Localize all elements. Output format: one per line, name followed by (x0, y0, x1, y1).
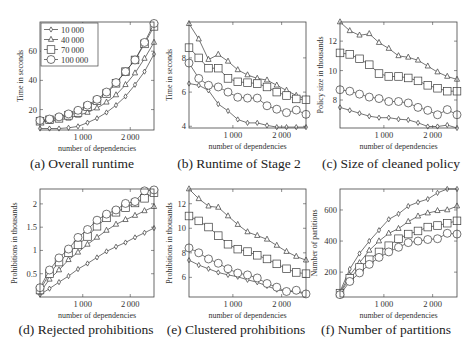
diamond-marker-icon (236, 117, 239, 122)
square-marker-icon (395, 73, 403, 81)
diamond-marker-icon (105, 110, 108, 115)
square-marker-icon (434, 84, 442, 92)
circle-marker-icon (283, 287, 291, 295)
circle-marker-icon (404, 239, 412, 247)
circle-marker-icon (55, 254, 63, 262)
triangle-marker-icon (376, 238, 381, 243)
circle-marker-icon (112, 206, 120, 214)
diamond-marker-icon (407, 117, 410, 122)
circle-marker-icon (93, 216, 101, 224)
square-marker-icon (263, 83, 271, 91)
circle-marker-icon (46, 115, 54, 123)
x-axis-label: number of dependencies (208, 311, 286, 320)
circle-marker-icon (263, 280, 271, 288)
circle-marker-icon (356, 90, 364, 98)
circle-marker-icon (365, 93, 373, 101)
circle-marker-icon (84, 101, 92, 109)
diamond-marker-icon (348, 108, 351, 113)
diamond-marker-icon (295, 125, 298, 130)
diamond-marker-icon (407, 203, 410, 208)
diamond-marker-icon (105, 249, 108, 254)
triangle-marker-icon (85, 241, 90, 246)
square-marker-icon (47, 46, 55, 54)
square-marker-icon (283, 265, 291, 273)
triangle-marker-icon (386, 45, 391, 50)
circle-marker-icon (434, 235, 442, 243)
triangle-marker-icon (216, 204, 221, 209)
x-tick-label: 1 000 (224, 299, 243, 309)
triangle-marker-icon (216, 51, 221, 56)
diamond-marker-icon (426, 197, 429, 202)
circle-marker-icon (395, 243, 403, 251)
circle-marker-icon (443, 229, 451, 237)
x-tick-label: 2 000 (121, 299, 140, 309)
square-marker-icon (214, 232, 222, 240)
diamond-marker-icon (207, 266, 210, 271)
caption-d: (d) Rejected prohibitions (19, 322, 154, 338)
caption-b: (b) Runtime of Stage 2 (177, 156, 301, 172)
circle-marker-icon (385, 248, 393, 256)
y-axis-label: Policy size in thousands (316, 36, 325, 113)
square-marker-icon (395, 235, 403, 243)
circle-marker-icon (234, 269, 242, 277)
triangle-marker-icon (367, 247, 372, 252)
y-axis-label: Time in seconds (165, 49, 174, 101)
diamond-marker-icon (446, 122, 449, 127)
diamond-marker-icon (48, 286, 51, 291)
diamond-marker-icon (265, 123, 268, 128)
triangle-marker-icon (104, 227, 109, 232)
legend-entry-label: 70 000 (61, 45, 84, 55)
series-circle (185, 59, 310, 118)
y-tick-label: 10 (329, 66, 338, 76)
circle-marker-icon (404, 99, 412, 107)
diamond-marker-icon (285, 125, 288, 130)
square-marker-icon (214, 64, 222, 72)
square-marker-icon (292, 269, 300, 277)
circle-marker-icon (112, 79, 120, 87)
square-marker-icon (424, 223, 432, 231)
circle-marker-icon (224, 88, 232, 96)
diamond-marker-icon (114, 244, 117, 249)
circle-marker-icon (234, 93, 242, 101)
square-marker-icon (365, 61, 373, 69)
series-triangle (337, 19, 459, 81)
legend: 10 00040 00070 000100 000 (41, 23, 98, 66)
triangle-marker-icon (225, 58, 230, 63)
circle-marker-icon (244, 94, 252, 102)
triangle-marker-icon (206, 203, 211, 208)
diamond-marker-icon (436, 190, 439, 195)
y-tick-label: 2 (33, 199, 37, 209)
x-tick-label: 1 000 (73, 132, 92, 142)
circle-marker-icon (103, 88, 111, 96)
circle-marker-icon (273, 105, 281, 113)
circle-marker-icon (375, 95, 383, 103)
y-axis-label: Prohibitions in thousands (165, 202, 174, 283)
diamond-marker-icon (226, 108, 229, 113)
y-tick-label: 8 (182, 248, 186, 258)
x-tick-label: 2 000 (121, 132, 140, 142)
square-marker-icon (385, 73, 393, 81)
y-tick-label: 200 (324, 267, 337, 277)
circle-marker-icon (195, 74, 203, 82)
circle-marker-icon (65, 245, 73, 253)
legend-entry-label: 100 000 (61, 55, 88, 65)
square-marker-icon (234, 78, 242, 86)
square-marker-icon (244, 79, 252, 87)
y-tick-label: 8 (333, 95, 337, 105)
diamond-marker-icon (76, 124, 79, 129)
circle-marker-icon (214, 83, 222, 91)
square-marker-icon (74, 241, 82, 249)
triangle-marker-icon (235, 67, 240, 72)
triangle-marker-icon (367, 31, 372, 36)
diamond-marker-icon (275, 125, 278, 130)
square-marker-icon (205, 64, 213, 72)
figure: 1 0002 000204060number of dependenciesTi… (0, 0, 473, 356)
circle-marker-icon (375, 253, 383, 261)
square-marker-icon (292, 95, 300, 103)
x-axis-label: number of dependencies (359, 142, 437, 151)
diamond-marker-icon (256, 120, 259, 125)
square-marker-icon (404, 74, 412, 82)
triangle-marker-icon (245, 229, 250, 234)
y-tick-label: 1.5 (26, 222, 37, 232)
circle-marker-icon (253, 94, 261, 102)
